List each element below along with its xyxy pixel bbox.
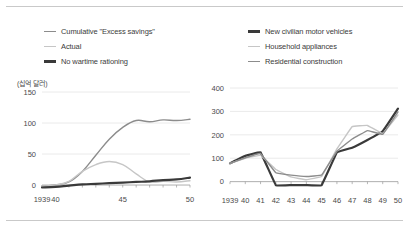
left-chart-svg: 0501001501939404550 [0,0,200,230]
x-axis-tick-label: 43 [287,196,295,205]
x-axis-tick-label: 45 [317,196,325,205]
x-axis-tick-label: 50 [394,196,402,205]
left-chart-plot: 0501001501939404550 [0,0,200,230]
x-axis-tick-label: 40 [51,195,59,204]
x-axis-tick-label: 1939 [34,195,51,204]
left-chart-panel: Cumulative "Excess savings" Actual No wa… [0,0,200,230]
x-axis-tick-label: 47 [348,196,356,205]
series-line [230,109,398,186]
x-axis-tick-label: 50 [186,195,194,204]
series-line [230,115,398,180]
y-axis-tick-label: 200 [211,131,224,140]
y-axis-tick-label: 0 [32,181,36,190]
x-axis-tick-label: 41 [256,196,264,205]
x-axis-tick-label: 46 [333,196,341,205]
x-axis-tick-label: 48 [363,196,371,205]
right-chart-svg: 010020030040019394041424344454647484950 [200,0,409,230]
y-axis-tick-label: 100 [23,119,36,128]
y-axis-tick-label: 300 [211,107,224,116]
x-axis-tick-label: 49 [379,196,387,205]
right-chart-plot: 010020030040019394041424344454647484950 [200,0,409,230]
y-axis-tick-label: 50 [28,150,36,159]
x-axis-tick-label: 44 [302,196,310,205]
series-line [42,119,190,186]
y-axis-tick-label: 100 [211,154,224,163]
x-axis-tick-label: 45 [119,195,127,204]
figure-root: Cumulative "Excess savings" Actual No wa… [0,0,409,230]
x-axis-tick-label: 40 [241,196,249,205]
x-axis-tick-label: 1939 [222,196,239,205]
series-line [230,112,398,177]
y-axis-tick-label: 0 [220,177,224,186]
x-axis-tick-label: 42 [272,196,280,205]
right-chart-panel: New civilian motor vehicles Household ap… [200,0,409,230]
y-axis-tick-label: 150 [23,88,36,97]
y-axis-tick-label: 400 [211,84,224,93]
